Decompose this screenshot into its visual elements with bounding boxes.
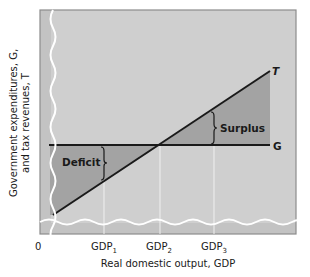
gdp2-tick-sub: 2 (167, 247, 171, 255)
gdp1-tick-label: GDP1 (91, 241, 117, 255)
budget-deficit-surplus-chart: Deficit Surplus T G 0 GDP1 GDP2 GDP3 Rea… (0, 0, 310, 277)
y-axis-label: Government expenditures, G, and tax reve… (8, 49, 31, 197)
gdp3-tick-label: GDP3 (201, 241, 227, 255)
surplus-label: Surplus (220, 122, 265, 134)
gdp3-tick-sub: 3 (222, 247, 226, 255)
gdp2-tick-base: GDP (146, 241, 167, 252)
x-axis-break-strip (40, 223, 296, 234)
y-axis-break-strip (40, 10, 51, 234)
gdp3-tick-base: GDP (201, 241, 222, 252)
t-line-label: T (272, 65, 280, 77)
g-line-label: G (273, 140, 282, 152)
gdp1-tick-base: GDP (91, 241, 112, 252)
x-axis-label: Real domestic output, GDP (101, 258, 236, 269)
y-axis-label-line2: and tax revenues, T (20, 72, 31, 173)
origin-label: 0 (35, 241, 41, 252)
gdp2-tick-label: GDP2 (146, 241, 172, 255)
gdp1-tick-sub: 1 (112, 247, 116, 255)
deficit-label: Deficit (62, 156, 100, 168)
y-axis-label-line1: Government expenditures, G, (8, 49, 19, 197)
